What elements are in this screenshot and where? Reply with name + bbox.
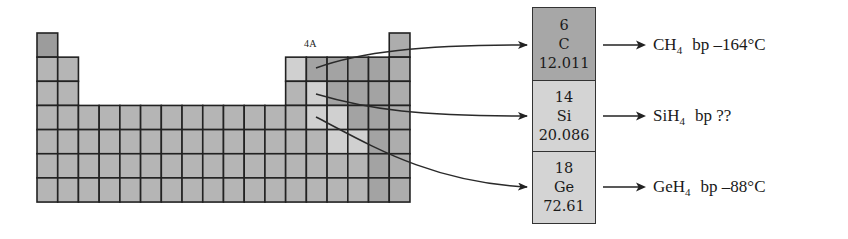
table-cell xyxy=(223,178,244,202)
table-cell xyxy=(141,154,162,178)
table-cell xyxy=(244,130,265,154)
table-cell xyxy=(223,105,244,129)
table-cell xyxy=(389,33,410,57)
table-cell xyxy=(182,105,203,129)
table-cell xyxy=(306,154,327,178)
table-cell xyxy=(389,130,410,154)
table-cell xyxy=(306,81,327,105)
table-cell xyxy=(389,81,410,105)
table-cell xyxy=(348,81,369,105)
table-cell xyxy=(286,81,307,105)
table-cell xyxy=(37,81,58,105)
table-cell xyxy=(369,81,390,105)
table-cell xyxy=(369,178,390,202)
table-cell xyxy=(161,154,182,178)
table-cell xyxy=(78,105,99,129)
formula: SiH4 xyxy=(653,106,685,126)
table-cell xyxy=(58,81,79,105)
table-cell xyxy=(244,105,265,129)
table-cell xyxy=(37,105,58,129)
table-cell xyxy=(99,154,120,178)
table-cell xyxy=(348,178,369,202)
product-sih4: SiH4 bp ?? xyxy=(603,104,731,128)
table-cell xyxy=(369,130,390,154)
table-cell xyxy=(327,178,348,202)
table-cell xyxy=(389,105,410,129)
table-cell xyxy=(120,154,141,178)
atomic-mass: 12.011 xyxy=(539,54,590,73)
table-cell xyxy=(369,57,390,81)
element-cell-silicon: 14 Si 20.086 xyxy=(532,80,596,153)
table-cell xyxy=(99,105,120,129)
table-cell xyxy=(37,57,58,81)
product-ch4: CH4 bp –164°C xyxy=(603,33,766,57)
table-cell xyxy=(389,178,410,202)
table-cell xyxy=(389,57,410,81)
table-cell xyxy=(286,57,307,81)
table-cell xyxy=(161,178,182,202)
element-symbol: C xyxy=(558,35,569,54)
table-cell xyxy=(203,130,224,154)
table-cell xyxy=(78,154,99,178)
element-symbol: Ge xyxy=(554,178,574,197)
table-cell xyxy=(306,130,327,154)
table-cell xyxy=(141,105,162,129)
product-geh4: GeH4 bp –88°C xyxy=(603,175,766,199)
formula: CH4 xyxy=(653,35,682,55)
atomic-number: 18 xyxy=(555,159,573,178)
table-cell xyxy=(203,178,224,202)
periodic-table-grid xyxy=(37,33,410,202)
table-cell xyxy=(58,130,79,154)
group-4a-label: 4A xyxy=(304,38,317,49)
table-cell xyxy=(348,154,369,178)
table-cell xyxy=(141,130,162,154)
table-cell xyxy=(265,130,286,154)
table-cell xyxy=(120,178,141,202)
boiling-point: bp –164°C xyxy=(692,35,765,55)
table-cell xyxy=(58,57,79,81)
table-cell xyxy=(223,130,244,154)
table-cell xyxy=(120,130,141,154)
table-cell xyxy=(223,154,244,178)
table-cell xyxy=(203,154,224,178)
table-cell xyxy=(99,130,120,154)
table-cell xyxy=(389,154,410,178)
table-cell xyxy=(78,178,99,202)
table-cell xyxy=(327,154,348,178)
table-cell xyxy=(161,130,182,154)
boiling-point: bp ?? xyxy=(695,106,731,126)
table-cell xyxy=(203,105,224,129)
group-4a-element-stack: 6 C 12.011 14 Si 20.086 18 Ge 72.61 xyxy=(532,7,596,224)
table-cell xyxy=(265,154,286,178)
table-cell xyxy=(182,178,203,202)
table-cell xyxy=(369,154,390,178)
boiling-point: bp –88°C xyxy=(701,177,766,197)
table-cell xyxy=(265,178,286,202)
table-cell xyxy=(58,105,79,129)
table-cell xyxy=(286,130,307,154)
table-cell xyxy=(244,178,265,202)
table-cell xyxy=(348,105,369,129)
table-cell xyxy=(286,105,307,129)
table-cell xyxy=(161,105,182,129)
element-cell-germanium: 18 Ge 72.61 xyxy=(532,151,596,224)
table-cell xyxy=(37,178,58,202)
right-arrow-icon xyxy=(603,110,647,122)
table-cell xyxy=(244,154,265,178)
table-cell xyxy=(37,130,58,154)
table-cell xyxy=(348,130,369,154)
table-cell xyxy=(120,105,141,129)
table-cell xyxy=(327,105,348,129)
table-cell xyxy=(58,154,79,178)
table-cell xyxy=(37,154,58,178)
table-cell xyxy=(265,105,286,129)
table-cell xyxy=(182,154,203,178)
table-cell xyxy=(306,57,327,81)
element-symbol: Si xyxy=(557,107,572,126)
table-cell xyxy=(306,178,327,202)
table-cell xyxy=(99,178,120,202)
atomic-mass: 20.086 xyxy=(539,126,590,145)
table-cell xyxy=(348,57,369,81)
right-arrow-icon xyxy=(603,181,647,193)
table-cell xyxy=(58,178,79,202)
